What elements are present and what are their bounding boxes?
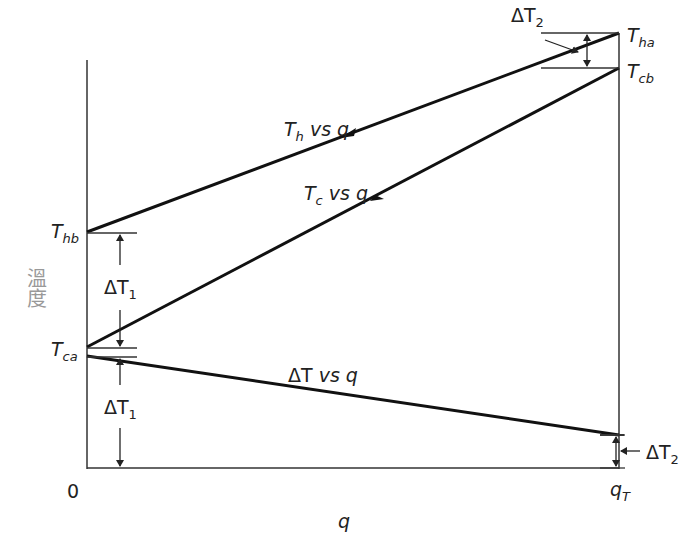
x-axis-label: q: [338, 512, 350, 531]
label-dT1-lower: ΔT1: [104, 398, 137, 417]
label-dT2-lower: ΔT2: [646, 443, 679, 462]
label-T-ha: Tha: [627, 26, 655, 45]
cold-stream-line: [87, 68, 619, 347]
heat-exchanger-temperature-diagram: [0, 0, 694, 547]
label-dT2-upper: ΔT2: [511, 6, 544, 25]
label-hot-curve: Th vs q: [284, 120, 349, 139]
label-T-hb: Thb: [51, 222, 79, 241]
x-end-label: qT: [610, 480, 630, 499]
label-delta-curve: ΔT vs q: [288, 366, 358, 385]
label-T-ca: Tca: [51, 340, 78, 359]
dimension-arrows: [120, 35, 640, 466]
label-cold-curve: Tc vs q: [304, 184, 368, 203]
axes: [87, 33, 619, 469]
label-T-cb: Tcb: [627, 62, 654, 81]
y-axis-label: 溫度: [22, 268, 46, 308]
label-dT1-upper: ΔT1: [104, 278, 137, 297]
x-origin-label: 0: [67, 482, 79, 501]
